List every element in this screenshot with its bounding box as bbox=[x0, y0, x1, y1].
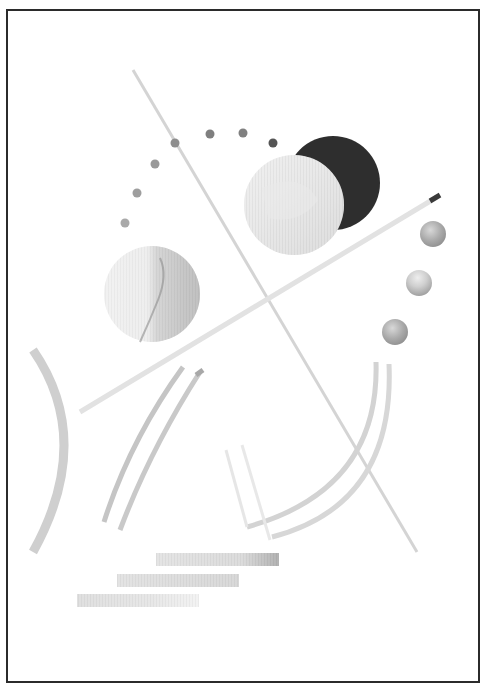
small-marble-circle-2 bbox=[406, 270, 432, 296]
left-arc bbox=[33, 350, 64, 552]
faint-line-1 bbox=[226, 450, 247, 527]
abstract-artwork bbox=[0, 0, 487, 698]
small-marble-circle-3 bbox=[382, 319, 408, 345]
right-arc-1 bbox=[247, 362, 376, 527]
small-marble-circle-1 bbox=[420, 221, 446, 247]
